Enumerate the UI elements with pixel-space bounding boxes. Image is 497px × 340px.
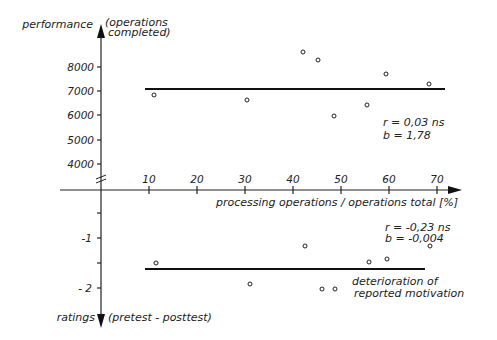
svg-text:8000: 8000: [67, 61, 94, 73]
svg-text:70: 70: [430, 173, 444, 185]
x-tick-labels: 10 20 30 40 50 60 70: [142, 173, 444, 185]
y-axis-arrow-up-icon: [97, 24, 105, 38]
scatter-chart: 10 20 30 40 50 60 70 processing operatio…: [0, 0, 497, 340]
upper-b-annotation: b = 1,78: [383, 129, 431, 142]
y-tick-label-lower: - 2: [78, 282, 92, 294]
y-axis-arrow-down-icon: [97, 314, 105, 328]
svg-text:50: 50: [334, 173, 348, 185]
y-lower-title: ratings: [57, 311, 96, 324]
upper-r-annotation: r = 0,03 ns: [383, 116, 445, 129]
svg-text:10: 10: [142, 173, 156, 185]
y-upper-title-paren-2: completed): [108, 26, 171, 39]
x-axis-arrow-icon: [448, 186, 462, 194]
svg-text:5000: 5000: [67, 134, 94, 146]
y-lower-title-paren: (pretest - posttest): [108, 311, 212, 324]
y-tick-label-lower: -1: [82, 232, 92, 244]
svg-text:30: 30: [238, 173, 252, 185]
svg-text:6000: 6000: [67, 109, 94, 121]
svg-text:40: 40: [286, 173, 300, 185]
y-upper-title: performance: [21, 18, 93, 31]
lower-b-annotation: b = -0,004: [385, 232, 444, 245]
svg-text:4000: 4000: [67, 158, 94, 170]
upper-data-points: [152, 50, 431, 118]
line-label-2: reported motivation: [354, 287, 464, 300]
x-axis-title: processing operations / operations total…: [215, 196, 458, 209]
svg-text:7000: 7000: [67, 85, 94, 97]
svg-text:20: 20: [190, 173, 204, 185]
svg-text:60: 60: [382, 173, 396, 185]
y-tick-labels-upper: 8000 7000 6000 5000 4000: [67, 61, 94, 170]
